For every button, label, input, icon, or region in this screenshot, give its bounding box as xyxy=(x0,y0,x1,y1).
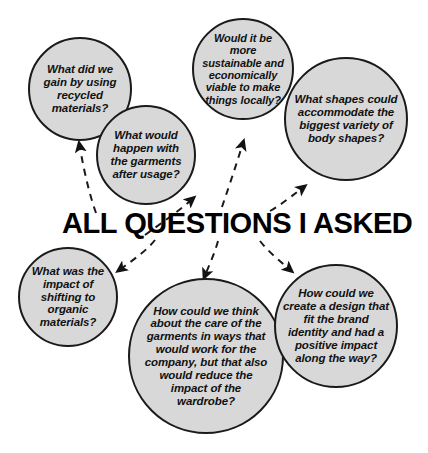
bubble-label: How could we think about the care of the… xyxy=(130,305,282,408)
connector-to-organic-materials xyxy=(122,240,155,268)
bubble-garments-after-usage[interactable]: What would happen with the garments afte… xyxy=(96,105,196,205)
connector-to-sustainable-local xyxy=(222,146,242,207)
bubble-label: What was the impact of shifting to organ… xyxy=(20,265,116,329)
connector-to-garment-care xyxy=(206,241,218,273)
bubble-label: How could we create a design that fit th… xyxy=(276,287,396,364)
bubble-label: What would happen with the garments afte… xyxy=(98,129,194,181)
bubble-garment-care[interactable]: How could we think about the care of the… xyxy=(128,278,284,434)
bubble-body-shapes[interactable]: What shapes could accommodate the bigges… xyxy=(284,57,408,181)
connector-to-brand-identity-design xyxy=(260,241,288,268)
bubble-organic-materials[interactable]: What was the impact of shifting to organ… xyxy=(18,247,118,347)
diagram-canvas: What did we gain by using recycled mater… xyxy=(0,0,428,453)
bubble-label: What shapes could accommodate the bigges… xyxy=(286,93,406,145)
bubble-label: What did we gain by using recycled mater… xyxy=(30,63,130,115)
connector-to-recycled-materials xyxy=(80,148,96,213)
page-title: ALL QUESTIONS I ASKED xyxy=(62,206,412,240)
bubble-sustainable-local[interactable]: Would it be more sustainable and economi… xyxy=(192,18,294,120)
bubble-label: Would it be more sustainable and economi… xyxy=(194,32,292,106)
bubble-brand-identity-design[interactable]: How could we create a design that fit th… xyxy=(274,264,398,388)
